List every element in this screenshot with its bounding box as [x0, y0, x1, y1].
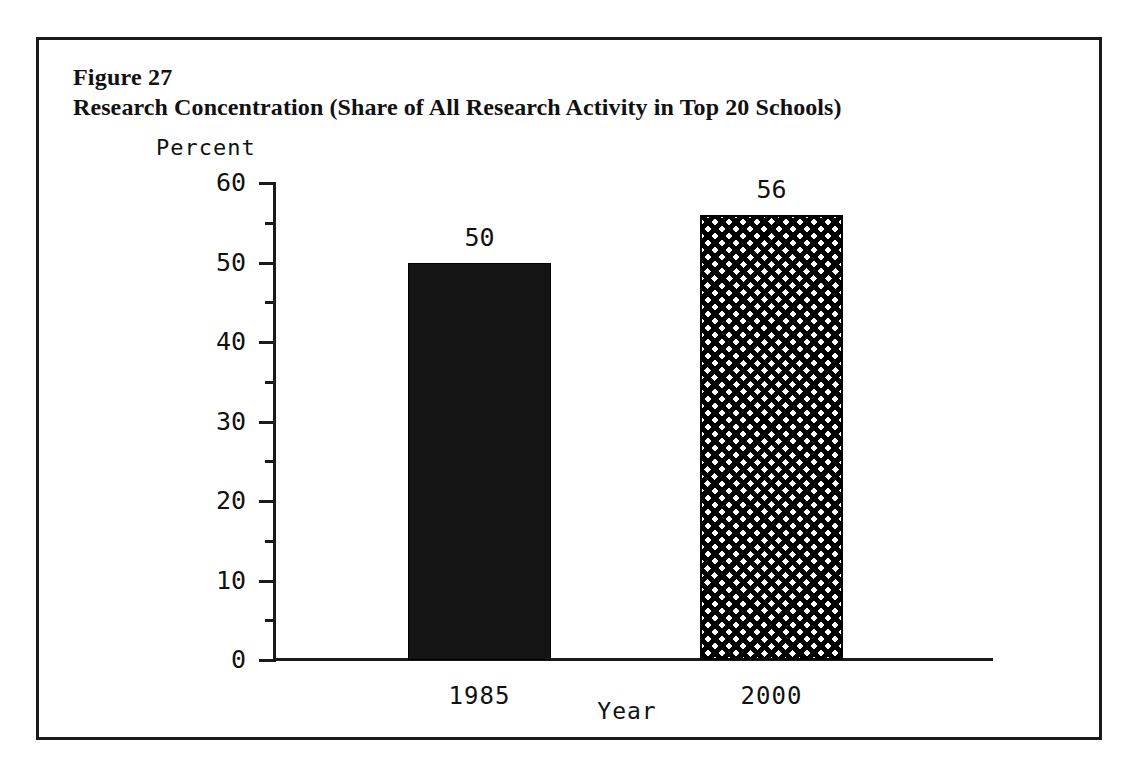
x-axis-title: Year [527, 700, 727, 723]
y-axis-major-tick [259, 421, 276, 424]
bar-1985 [408, 263, 551, 661]
bar-value-label-2000: 56 [700, 177, 843, 202]
y-axis-tick-label: 0 [184, 647, 246, 672]
y-axis-major-tick [259, 500, 276, 503]
y-axis-tick-label: 30 [184, 409, 246, 434]
y-axis-tick-label: 40 [184, 329, 246, 354]
bar-2000 [700, 215, 843, 660]
y-axis-major-tick [259, 262, 276, 265]
y-axis-tick-label: 20 [184, 488, 246, 513]
y-axis-tick-labels: 6050403020100 [184, 40, 246, 737]
y-axis-minor-tick [265, 540, 276, 543]
x-axis-line [273, 658, 993, 661]
y-axis-minor-tick [265, 619, 276, 622]
bar-chart: Percent 6050403020100 501985562000 Year [39, 40, 1099, 737]
y-axis-minor-tick [265, 460, 276, 463]
y-axis-major-tick [259, 341, 276, 344]
y-axis-major-tick [259, 182, 276, 185]
y-axis-minor-tick [265, 301, 276, 304]
y-axis-tick-label: 10 [184, 568, 246, 593]
figure-frame: Figure 27 Research Concentration (Share … [36, 37, 1102, 740]
y-axis-major-tick [259, 580, 276, 583]
bar-value-label-1985: 50 [408, 225, 551, 250]
y-axis-minor-tick [265, 381, 276, 384]
y-axis-minor-tick [265, 222, 276, 225]
y-axis-major-tick [259, 659, 276, 662]
y-axis-tick-label: 60 [184, 170, 246, 195]
y-axis-tick-label: 50 [184, 250, 246, 275]
